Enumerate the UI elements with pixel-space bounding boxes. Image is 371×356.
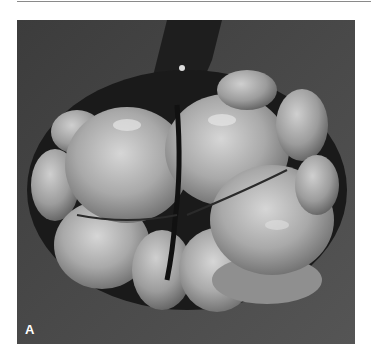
panel-label: A <box>25 323 34 336</box>
top-rule <box>17 1 371 2</box>
specimen-illustration <box>17 20 355 344</box>
specimen-photo: A <box>17 20 355 344</box>
